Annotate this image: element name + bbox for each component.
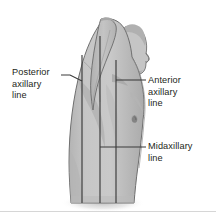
posterior-axillary-line-label: Posterior axillary line	[12, 67, 50, 102]
posterior-label-line-1: Posterior	[12, 67, 50, 79]
anterior-axillary-line-label: Anterior axillary line	[148, 75, 181, 110]
figure-bottom-rule	[0, 211, 216, 212]
midaxillary-label-line-2: line	[148, 153, 193, 165]
midaxillary-line-label: Midaxillary line	[148, 141, 193, 164]
posterior-label-line-3: line	[12, 90, 50, 102]
anterior-label-line-3: line	[148, 98, 181, 110]
anatomy-figure: Posterior axillary line Anterior axillar…	[0, 0, 216, 219]
posterior-label-line-2: axillary	[12, 79, 50, 91]
anterior-label-line-1: Anterior	[148, 75, 181, 87]
torso-illustration	[0, 0, 216, 219]
midaxillary-label-line-1: Midaxillary	[148, 141, 193, 153]
anterior-label-line-2: axillary	[148, 87, 181, 99]
